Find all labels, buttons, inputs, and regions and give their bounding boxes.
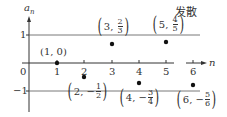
point-label-3: (3, 23) [96,16,130,36]
point-1 [55,61,59,65]
point-3 [110,42,114,46]
point-label-4: (4, −34) [118,87,161,107]
x-axis-label: n [209,58,215,68]
x-tick-label-6: 6 [190,67,196,77]
x-tick-label-4: 4 [136,67,142,77]
point-4 [137,81,141,85]
point-6 [191,83,195,87]
point-label-6: (6, −56) [175,89,218,109]
x-tick-label-2: 2 [81,67,87,77]
point-label-1: (1, 0) [40,47,67,57]
y-axis-label: an [24,3,34,17]
origin-label: 0 [20,67,26,77]
y-tick-label-1: 1 [20,30,26,40]
x-tick-label-1: 1 [54,67,60,77]
x-axis-arrow-icon [201,61,207,65]
y-tick-label-neg1: −1 [13,86,28,96]
point-label-5: (5, 45) [151,14,185,34]
x-tick-label-5: 5 [163,67,169,77]
point-5 [164,40,168,44]
x-tick-label-3: 3 [109,67,115,77]
point-label-2: (2, −12) [66,81,109,101]
